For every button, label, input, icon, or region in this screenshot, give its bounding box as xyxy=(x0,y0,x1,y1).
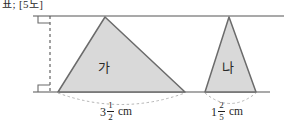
triangle-label-na: 나 xyxy=(222,57,234,76)
triangle-ga xyxy=(58,17,185,92)
triangles-diagram xyxy=(0,0,287,136)
measure-ga-numerator: 1 xyxy=(107,101,114,111)
measure-na-fraction: 2 5 xyxy=(218,101,225,122)
measure-na-numerator: 2 xyxy=(218,101,225,111)
triangle-label-ga: 가 xyxy=(98,57,110,76)
measure-na-unit: cm xyxy=(229,106,243,118)
base-measure-ga: 3 1 2 cm xyxy=(100,101,132,122)
measure-na-denominator: 5 xyxy=(218,112,225,122)
right-angle-mark-bottom xyxy=(38,85,50,92)
measure-na-whole: 1 xyxy=(211,106,217,118)
triangle-na xyxy=(205,17,256,92)
geometry-figure-canvas: 표; [5도] 가 나 3 1 2 cm 1 xyxy=(0,0,287,136)
base-measure-na: 1 2 5 cm xyxy=(211,101,243,122)
right-angle-mark-top xyxy=(38,16,50,23)
measure-ga-unit: cm xyxy=(118,106,132,118)
measure-ga-whole: 3 xyxy=(100,106,106,118)
measure-ga-fraction: 1 2 xyxy=(107,101,114,122)
measure-ga-denominator: 2 xyxy=(107,112,114,122)
